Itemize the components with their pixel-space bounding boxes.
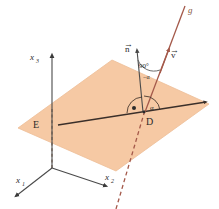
- vector-v-arrow: [160, 49, 169, 73]
- angle-label-alpha: α: [150, 104, 154, 112]
- point-label-D: D: [146, 116, 153, 127]
- axis-label-x1-base: x: [15, 175, 20, 185]
- axis-label-x1-subscript: 1: [22, 181, 25, 187]
- point-D-marker: [143, 111, 146, 114]
- angle-label-90deg: 90°: [139, 62, 149, 70]
- axis-label-x2-base: x: [104, 172, 109, 182]
- axis-label-x2-subscript: 2: [111, 178, 114, 184]
- axis-label-x3-subscript: 3: [35, 58, 39, 64]
- right-angle-dot-icon: [132, 106, 136, 110]
- line-label-g: g: [188, 5, 193, 15]
- axis-x2: [52, 168, 106, 186]
- axis-label-x3-base: x: [29, 52, 34, 62]
- vector-n-arrow-icon: →: [124, 39, 133, 49]
- angle-label-minus-alpha: −α: [143, 74, 150, 80]
- geometry-canvas: x 3 x 1 x 2 E D g n → v → 90° −α α: [0, 0, 219, 209]
- plane-E-surface: [18, 60, 209, 171]
- plane-label-E: E: [33, 119, 39, 130]
- geometry-figure: x 3 x 1 x 2 E D g n → v → 90° −α α: [0, 0, 219, 209]
- vector-v-arrow-icon: →: [170, 45, 179, 55]
